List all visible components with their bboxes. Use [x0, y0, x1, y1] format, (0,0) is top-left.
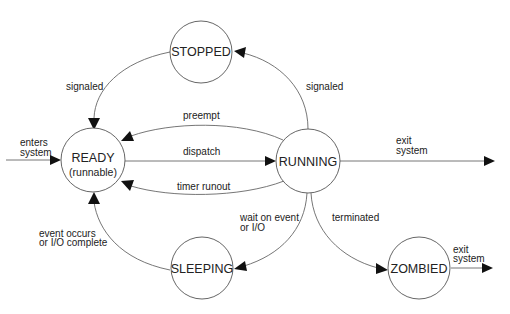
label-event-occurs-2: or I/O complete — [39, 237, 108, 248]
edge-stopped-to-ready — [94, 52, 170, 118]
state-running: RUNNING — [276, 129, 340, 193]
arrowhead-dispatch — [265, 156, 276, 166]
edge-sleeping-to-ready — [94, 202, 170, 270]
edge-preempt — [131, 125, 283, 140]
label-terminated: terminated — [332, 212, 379, 223]
arrowhead-timer-runout — [121, 180, 134, 191]
label-preempt: preempt — [183, 110, 220, 121]
arrowhead-running-to-sleeping — [234, 261, 247, 271]
state-running-label: RUNNING — [279, 155, 337, 169]
arrowhead-running-exit — [484, 156, 495, 166]
label-stopped-to-ready: signaled — [66, 81, 103, 92]
state-stopped: STOPPED — [170, 21, 232, 83]
state-sleeping: SLEEPING — [171, 237, 234, 299]
state-sleeping-label: SLEEPING — [171, 262, 234, 276]
state-zombied: ZOMBIED — [388, 237, 450, 299]
edge-running-to-zombied — [311, 193, 378, 268]
label-dispatch: dispatch — [183, 146, 220, 157]
arrowhead-zombied-exit — [482, 263, 493, 273]
edge-running-to-stopped — [243, 53, 308, 129]
label-running-exit-2: system — [396, 145, 428, 156]
arrowhead-running-to-stopped — [234, 47, 246, 58]
state-ready-sublabel: (runnable) — [69, 166, 117, 178]
process-state-diagram: STOPPED READY (runnable) RUNNING SLEEPIN… — [0, 0, 510, 314]
arrowhead-sleeping-to-ready — [88, 192, 100, 204]
state-ready: READY (runnable) — [61, 128, 125, 192]
arrowhead-running-to-zombied — [376, 263, 388, 274]
state-zombied-label: ZOMBIED — [391, 262, 448, 276]
label-running-to-stopped: signaled — [306, 81, 343, 92]
label-zombied-exit-2: system — [453, 253, 485, 264]
state-stopped-label: STOPPED — [171, 45, 231, 59]
label-enters-system-2: system — [20, 147, 52, 158]
label-timer-runout: timer runout — [177, 181, 231, 192]
state-ready-label: READY — [71, 151, 115, 165]
label-wait-on-event-2: or I/O — [240, 222, 265, 233]
